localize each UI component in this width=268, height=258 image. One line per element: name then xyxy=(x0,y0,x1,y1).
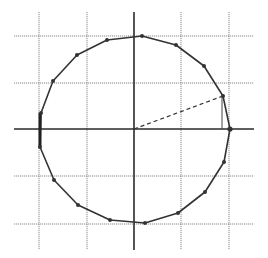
vertex-dot xyxy=(76,203,80,207)
vertex-dot xyxy=(203,190,207,194)
vertex-dot xyxy=(176,211,180,215)
construction-lines xyxy=(134,96,223,129)
vertex-dot xyxy=(174,43,178,47)
vertex-dot xyxy=(227,126,232,131)
radius-dashed-line xyxy=(134,96,223,129)
vertex-dot xyxy=(108,218,112,222)
vertex-dot xyxy=(52,178,56,182)
vertex-dot xyxy=(105,38,109,42)
vertex-dot xyxy=(140,34,144,38)
axes xyxy=(14,12,254,250)
vertex-dot xyxy=(51,79,55,83)
vertex-dot xyxy=(221,94,225,98)
vertex-dot xyxy=(75,53,79,57)
vertex-dot xyxy=(222,160,226,164)
polygon-circle-diagram xyxy=(0,0,268,258)
vertex-dot xyxy=(39,111,43,115)
vertex-dot xyxy=(202,64,206,68)
vertex-dot xyxy=(38,145,42,149)
vertex-dot xyxy=(143,221,147,225)
